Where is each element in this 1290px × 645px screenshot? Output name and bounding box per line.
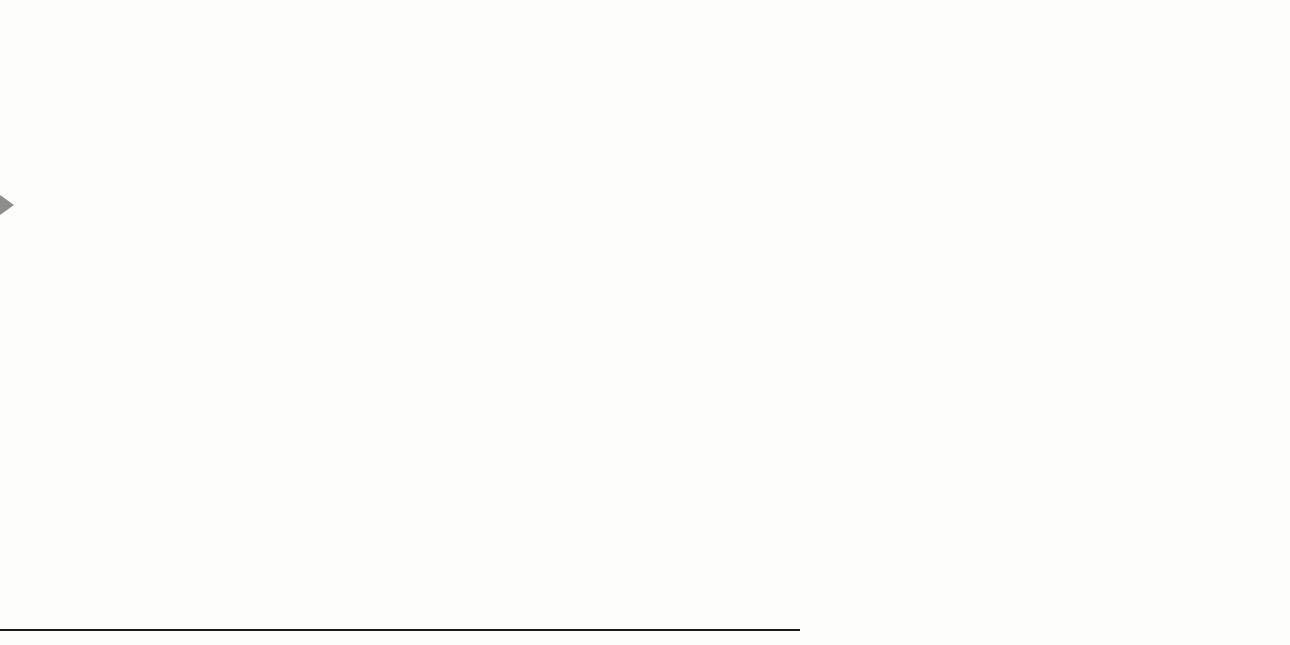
scatter-chart (0, 0, 1290, 645)
chart-page (0, 0, 1290, 645)
footer-divider (0, 629, 800, 631)
plot-svg (0, 0, 1290, 645)
left-arrow-marker-icon (0, 188, 14, 222)
